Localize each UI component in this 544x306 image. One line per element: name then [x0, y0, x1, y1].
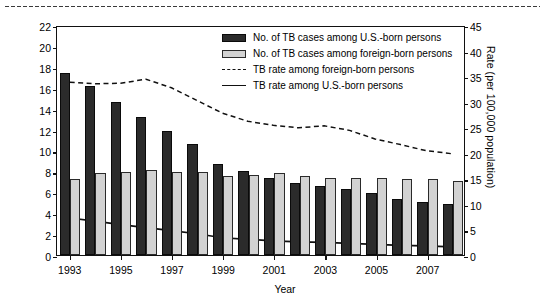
- bar-us-born: [111, 102, 121, 255]
- y-axis-left-tick-label: 18: [39, 63, 51, 75]
- y-axis-left-tick-label: 2: [45, 230, 51, 242]
- bar-foreign-born: [274, 173, 284, 255]
- bar-us-born: [341, 189, 351, 255]
- bar-foreign-born: [377, 178, 387, 255]
- y-axis-left-tick-label: 6: [45, 188, 51, 200]
- y-axis-right-title: Rate (per 100,000 population): [485, 46, 497, 188]
- y-axis-left-tickmark: [53, 257, 57, 258]
- y-axis-right-tickmark: [464, 53, 468, 54]
- bar-foreign-born: [300, 176, 310, 255]
- legend-item: TB rate among U.S.-born persons: [222, 79, 452, 93]
- y-axis-left-tickmark: [53, 111, 57, 112]
- x-axis-tickmark: [121, 255, 122, 260]
- bar-us-born: [264, 178, 274, 255]
- y-axis-right-tick-label: 20: [470, 149, 482, 161]
- dark-swatch-icon: [222, 34, 246, 42]
- y-axis-left-tickmark: [53, 215, 57, 216]
- y-axis-right-tick-label: 25: [470, 123, 482, 135]
- x-axis-tick-label: 1997: [160, 264, 183, 276]
- y-axis-right-tick-label: 0: [470, 251, 476, 263]
- bar-foreign-born: [453, 181, 463, 255]
- bar-us-born: [85, 86, 95, 255]
- x-axis-tick-label: 1993: [58, 264, 81, 276]
- y-axis-right-tickmark: [464, 206, 468, 207]
- y-axis-left-tick-label: 14: [39, 105, 51, 117]
- x-axis-tick-label: 1999: [211, 264, 234, 276]
- y-axis-right-tick-label: 40: [470, 47, 482, 59]
- x-axis-tick-label: 2001: [263, 264, 286, 276]
- y-axis-left-tick-label: 16: [39, 84, 51, 96]
- x-axis-tick-label: 2005: [365, 264, 388, 276]
- y-axis-left-tick-label: 12: [39, 126, 51, 138]
- y-axis-left-tick-label: 0: [45, 251, 51, 263]
- legend-item: No. of TB cases among foreign-born perso…: [222, 47, 452, 61]
- bar-us-born: [213, 164, 223, 255]
- legend-item-label: TB rate among foreign-born persons: [253, 63, 414, 77]
- bar-foreign-born: [95, 173, 105, 255]
- y-axis-left-tick-label: 20: [39, 42, 51, 54]
- x-axis-tickmark: [223, 255, 224, 260]
- dashed-line-icon: [222, 69, 246, 70]
- y-axis-left-tickmark: [53, 194, 57, 195]
- y-axis-left-tickmark: [53, 69, 57, 70]
- bar-us-born: [290, 183, 300, 255]
- bar-foreign-born: [198, 172, 208, 255]
- light-swatch-icon: [222, 50, 246, 58]
- x-axis-tickmark: [274, 255, 275, 260]
- y-axis-right-tickmark: [464, 78, 468, 79]
- x-axis-tickmark: [428, 255, 429, 260]
- y-axis-right-tickmark: [464, 104, 468, 105]
- bar-foreign-born: [428, 179, 438, 255]
- bar-foreign-born: [223, 176, 233, 255]
- y-axis-right-tickmark: [464, 155, 468, 156]
- y-axis-left-tick-label: 22: [39, 21, 51, 33]
- bar-foreign-born: [249, 175, 259, 256]
- x-axis-tickmark: [377, 255, 378, 260]
- legend-item-label: No. of TB cases among foreign-born perso…: [253, 47, 452, 61]
- x-axis-tickmark: [70, 255, 71, 260]
- bar-foreign-born: [121, 172, 131, 255]
- y-axis-left-tick-label: 10: [39, 146, 51, 158]
- legend-item: TB rate among foreign-born persons: [222, 63, 452, 77]
- bar-us-born: [417, 202, 427, 255]
- y-axis-left-tickmark: [53, 27, 57, 28]
- x-axis-tick-label: 2003: [314, 264, 337, 276]
- bar-us-born: [315, 186, 325, 255]
- bar-foreign-born: [146, 170, 156, 255]
- x-axis-tickmark: [172, 255, 173, 260]
- top-dotted-rule: [4, 5, 540, 8]
- bar-foreign-born: [351, 178, 361, 255]
- x-axis-tick-label: 1995: [109, 264, 132, 276]
- y-axis-left-tickmark: [53, 48, 57, 49]
- bar-us-born: [443, 204, 453, 255]
- bar-us-born: [366, 193, 376, 255]
- y-axis-right-tick-label: 45: [470, 21, 482, 33]
- y-axis-right-tick-label: 10: [470, 200, 482, 212]
- legend-item-label: No. of TB cases among U.S.-born persons: [253, 31, 441, 45]
- legend-item-label: TB rate among U.S.-born persons: [253, 79, 403, 93]
- bar-foreign-born: [402, 179, 412, 255]
- bar-us-born: [162, 131, 172, 255]
- y-axis-left-tick-label: 4: [45, 209, 51, 221]
- bar-us-born: [187, 144, 197, 255]
- y-axis-left-tickmark: [53, 236, 57, 237]
- x-axis-tickmark: [325, 255, 326, 260]
- y-axis-right-tickmark: [464, 27, 468, 28]
- y-axis-right-tickmark: [464, 180, 468, 181]
- y-axis-right-tickmark: [464, 129, 468, 130]
- y-axis-left-tick-label: 8: [45, 167, 51, 179]
- bar-foreign-born: [70, 179, 80, 255]
- bar-us-born: [238, 171, 248, 255]
- bar-foreign-born: [172, 172, 182, 255]
- x-axis-title: Year: [0, 283, 544, 295]
- y-axis-right-tick-label: 30: [470, 98, 482, 110]
- x-axis-title-text: Year: [248, 283, 295, 295]
- y-axis-left-tickmark: [53, 132, 57, 133]
- y-axis-left-tickmark: [53, 152, 57, 153]
- bar-us-born: [392, 199, 402, 255]
- legend-item: No. of TB cases among U.S.-born persons: [222, 31, 452, 45]
- y-axis-right-tickmark: [464, 257, 468, 258]
- y-axis-right-tick-label: 5: [470, 225, 476, 237]
- bar-us-born: [60, 73, 70, 255]
- y-axis-left-tickmark: [53, 90, 57, 91]
